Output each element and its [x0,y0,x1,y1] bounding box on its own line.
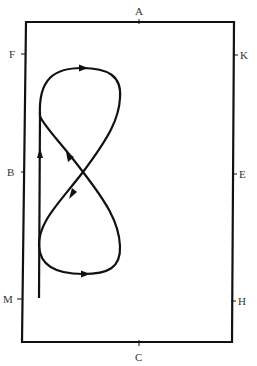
marker-b: B [7,166,14,178]
arrow-right-top-icon [79,65,88,72]
marker-m: M [3,293,13,305]
arena-boundary [22,22,234,342]
arena-diagram: A C F B M K E H [0,0,257,366]
marker-k: K [240,49,248,61]
marker-c: C [135,351,142,363]
entry-line [39,112,40,298]
arrow-up-icon [37,148,43,158]
arrow-right-bottom-icon [81,271,90,278]
marker-a: A [135,5,143,17]
marker-f: F [9,48,15,60]
marker-h: H [238,295,246,307]
figure-eight-path [39,68,120,274]
marker-e: E [239,168,246,180]
